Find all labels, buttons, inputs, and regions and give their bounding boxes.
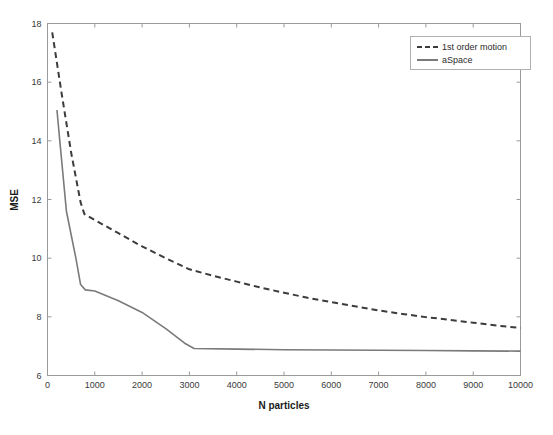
y-axis-title: MSE xyxy=(9,189,20,211)
x-tick-label: 7000 xyxy=(369,380,389,390)
x-tick-label: 8000 xyxy=(416,380,436,390)
y-tick-label: 10 xyxy=(31,253,41,263)
x-tick-label: 9000 xyxy=(463,380,483,390)
y-tick-label: 12 xyxy=(31,195,41,205)
x-tick-label: 2000 xyxy=(132,380,152,390)
x-tick-label: 5000 xyxy=(274,380,294,390)
x-axis-title: N particles xyxy=(258,400,310,411)
y-tick-label: 6 xyxy=(36,371,41,381)
y-tick-label: 18 xyxy=(31,19,41,29)
x-tick-label: 6000 xyxy=(321,380,341,390)
y-tick-label: 16 xyxy=(31,77,41,87)
x-tick-label: 1000 xyxy=(85,380,105,390)
y-tick-label: 14 xyxy=(31,136,41,146)
x-tick-label: 0 xyxy=(45,380,50,390)
legend-label-1st-order-motion: 1st order motion xyxy=(442,42,507,52)
x-tick-label: 3000 xyxy=(179,380,199,390)
legend-label-aspace: aSpace xyxy=(442,55,473,65)
mse-vs-particles-chart: 0100020003000400050006000700080009000100… xyxy=(0,0,553,435)
x-tick-label: 10000 xyxy=(508,380,533,390)
x-tick-label: 4000 xyxy=(227,380,247,390)
figure-canvas: 0100020003000400050006000700080009000100… xyxy=(0,0,553,435)
chart-legend: 1st order motion aSpace xyxy=(411,37,531,70)
y-tick-label: 8 xyxy=(36,312,41,322)
